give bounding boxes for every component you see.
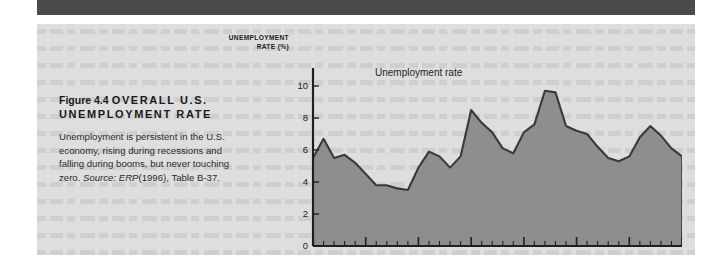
figure-caption: Figure 4.4 OVERALL U.S. UNEMPLOYMENT RAT… (59, 93, 237, 184)
y-axis-tick-label: 2 (303, 208, 308, 219)
x-axis-tick-label: 1980 (513, 252, 534, 253)
y-axis-tick-label: 6 (303, 144, 308, 155)
x-axis-tick-label: 1995 (671, 252, 682, 253)
x-axis-tick-label: 1975 (461, 252, 482, 253)
x-axis-tick-label: 1985 (566, 252, 587, 253)
caption-source-detail: (1996), Table B-37. (139, 172, 220, 183)
y-axis-tick-label: 0 (303, 240, 308, 251)
page-top-band (37, 0, 695, 15)
series-area-unemployment-rate (313, 91, 682, 246)
figure-headline-line2: UNEMPLOYMENT RATE (59, 108, 212, 120)
unemployment-rate-chart: UNEMPLOYMENT RATE (%) 024681019601965197… (212, 28, 682, 253)
series-annotation-label: Unemployment rate (375, 67, 463, 78)
figure-number: Figure 4.4 (59, 94, 109, 106)
y-axis-tick-label: 8 (303, 112, 308, 123)
figure-panel: Figure 4.4 OVERALL U.S. UNEMPLOYMENT RAT… (37, 24, 695, 255)
figure-caption-title: Figure 4.4 OVERALL U.S. UNEMPLOYMENT RAT… (59, 93, 237, 121)
caption-source-work: ERP (119, 172, 139, 183)
figure-caption-body: Unemployment is persistent in the U.S. e… (59, 130, 237, 184)
x-axis-tick-label: 1960 (302, 252, 323, 253)
figure-headline-line1: OVERALL U.S. (112, 94, 208, 106)
x-axis-tick-label: 1965 (355, 252, 376, 253)
x-axis-tick-label: 1970 (408, 252, 429, 253)
y-axis-tick-label: 4 (303, 176, 308, 187)
y-axis-tick-label: 10 (297, 80, 308, 91)
caption-source-label: Source: (83, 172, 116, 183)
x-axis-tick-label: 1990 (619, 252, 640, 253)
chart-plot-svg: 024681019601965197019751980198519901995U… (212, 28, 682, 253)
